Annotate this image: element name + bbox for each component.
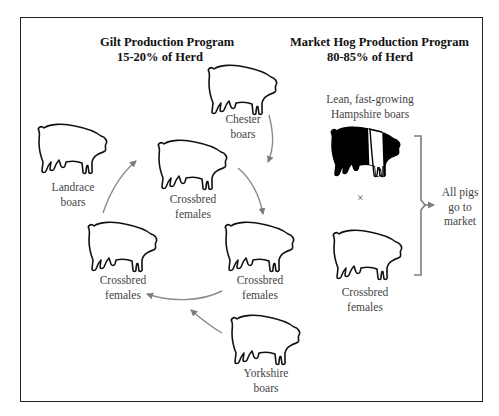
- bracket-market: [414, 136, 434, 275]
- arrows-overlay: [0, 0, 499, 416]
- arrow-crossbred-top-to-right: [238, 168, 263, 214]
- arrow-crossbred-right-to-left: [147, 291, 222, 300]
- arrow-chester-to-crossbred-right: [268, 115, 273, 162]
- arrow-crossbred-left-to-top: [103, 161, 136, 213]
- arrow-yorkshire-to-crossbred-left: [191, 310, 222, 333]
